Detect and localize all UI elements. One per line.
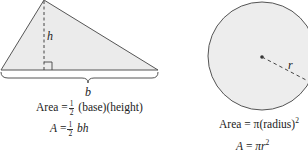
triangle-area-word-formula: Area =12 (base)(height) (36, 100, 143, 116)
exponent: 2 (295, 116, 299, 125)
geometry-figures (0, 0, 308, 159)
equals-sign: = (246, 140, 253, 152)
base-label: b (85, 86, 91, 98)
formula-rhs: πr (255, 140, 265, 152)
exponent: 2 (266, 138, 270, 147)
equals-sign: = (61, 101, 68, 113)
equals-sign: = (60, 122, 67, 134)
formula-lhs: Area (36, 101, 58, 113)
triangle-shape (1, 0, 158, 70)
circle-shape (208, 2, 308, 110)
formula-lhs: A (50, 122, 57, 134)
formula-rhs: (base)(height) (78, 101, 143, 113)
circle-area-symbolic-formula: A = πr2 (236, 139, 269, 152)
radius-label: r (288, 59, 293, 71)
triangle-area-symbolic-formula: A =12 bh (50, 121, 89, 137)
fraction: 12 (67, 121, 73, 137)
circle-figure (208, 2, 308, 110)
fraction: 12 (69, 100, 75, 116)
formula-lhs: Area (219, 118, 241, 130)
circle-area-word-formula: Area = π(radius)2 (219, 117, 299, 130)
equals-sign: = (244, 118, 251, 130)
formula-rhs: bh (77, 122, 89, 134)
formula-lhs: A (236, 140, 243, 152)
triangle-figure (1, 0, 158, 83)
height-label: h (47, 30, 53, 42)
formula-rhs: π(radius) (254, 118, 296, 130)
base-brace-icon (1, 72, 158, 83)
